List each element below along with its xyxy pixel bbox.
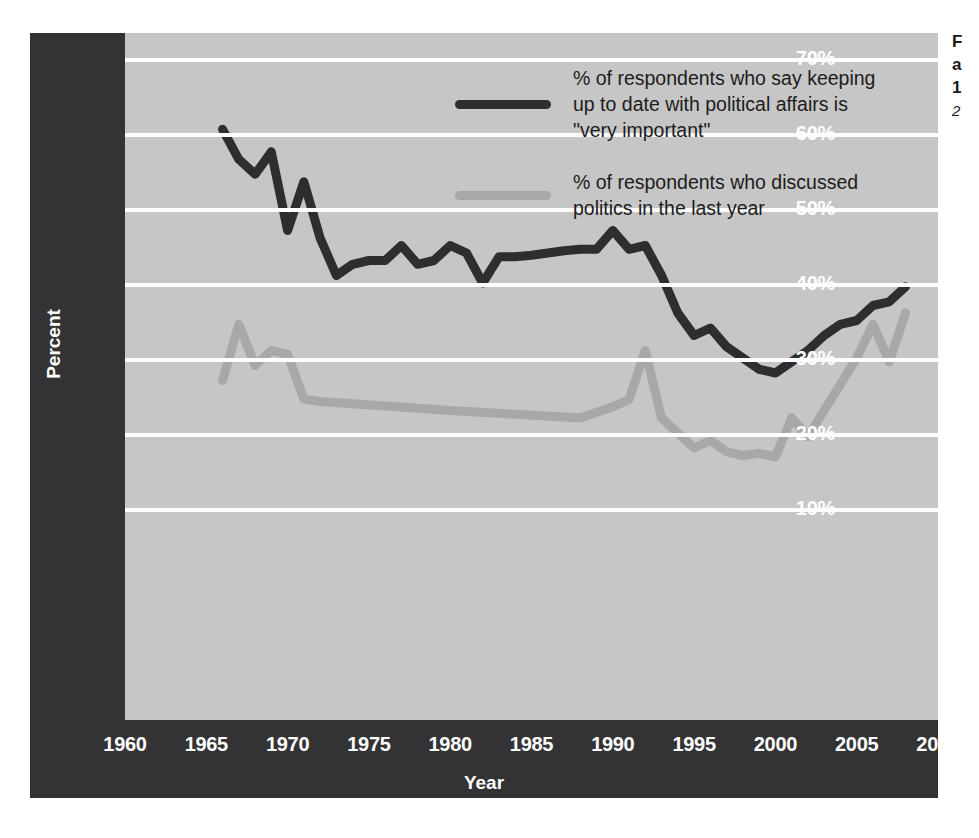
y-tick-20: 20% — [755, 422, 835, 445]
figure-caption: F a 1 2 — [952, 30, 979, 122]
x-tick-1990: 1990 — [573, 733, 653, 756]
x-tick-1960: 1960 — [85, 733, 165, 756]
x-tick-2005: 2005 — [817, 733, 897, 756]
caption-line-2: a — [952, 53, 979, 76]
y-tick-50: 50% — [755, 197, 835, 220]
y-tick-10: 10% — [755, 497, 835, 520]
y-tick-70: 70% — [755, 47, 835, 70]
x-tick-1985: 1985 — [492, 733, 572, 756]
caption-line-4: 2 — [952, 99, 979, 122]
chart-figure: % of respondents who say keeping up to d… — [30, 33, 938, 798]
dark-line-swatch-icon — [455, 100, 551, 109]
x-tick-1975: 1975 — [329, 733, 409, 756]
x-tick-1995: 1995 — [654, 733, 734, 756]
x-axis-title: Year — [30, 772, 938, 794]
x-tick-2000: 2000 — [735, 733, 815, 756]
x-tick-1970: 1970 — [248, 733, 328, 756]
caption-line-1: F — [952, 30, 979, 53]
y-tick-60: 60% — [755, 122, 835, 145]
y-axis-title: Percent — [43, 284, 65, 404]
chart-legend: % of respondents who say keeping up to d… — [455, 65, 885, 247]
x-tick-1980: 1980 — [410, 733, 490, 756]
caption-line-3: 1 — [952, 76, 979, 99]
x-tick-2010: 2010 — [898, 733, 978, 756]
y-tick-40: 40% — [755, 272, 835, 295]
gray-line-swatch-icon — [455, 191, 551, 200]
y-tick-30: 30% — [755, 347, 835, 370]
x-tick-1965: 1965 — [166, 733, 246, 756]
